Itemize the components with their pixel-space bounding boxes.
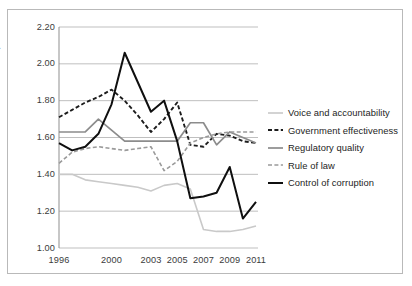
series-line — [59, 90, 256, 147]
legend-line-swatch-icon — [268, 125, 283, 135]
legend-item-label: Voice and accountability — [288, 107, 390, 118]
legend-item[interactable]: Regulatory quality — [268, 139, 400, 157]
legend-item-label: Rule of law — [288, 160, 335, 171]
legend-item-label: Control of corruption — [288, 177, 374, 188]
legend-line-swatch-icon — [268, 108, 283, 118]
plot-area — [59, 27, 256, 248]
chart-figure: Maximum 2.5; minimum −2.5 2.202.001.801.… — [0, 0, 412, 286]
legend-item[interactable]: Rule of law — [268, 157, 400, 175]
x-tick-label: 2011 — [246, 256, 266, 265]
x-tick-label: 1996 — [49, 256, 70, 265]
legend-item[interactable]: Government effectiveness — [268, 122, 400, 140]
chart-legend: Voice and accountabilityGovernment effec… — [268, 104, 400, 192]
legend-line-swatch-icon — [268, 160, 283, 170]
x-tick-label: 2003 — [141, 256, 162, 265]
x-tick-label: 2005 — [167, 256, 188, 265]
x-tick-label: 2009 — [219, 256, 240, 265]
legend-line-swatch-icon — [268, 178, 283, 188]
legend-item[interactable]: Voice and accountability — [268, 104, 400, 122]
series-line — [59, 174, 256, 231]
legend-item-label: Regulatory quality — [288, 142, 364, 153]
x-tick-label: 2007 — [193, 256, 214, 265]
legend-line-swatch-icon — [268, 143, 283, 153]
x-tick-label: 2000 — [101, 256, 122, 265]
plot-svg — [59, 27, 256, 248]
legend-item[interactable]: Control of corruption — [268, 174, 400, 192]
legend-item-label: Government effectiveness — [288, 125, 398, 136]
